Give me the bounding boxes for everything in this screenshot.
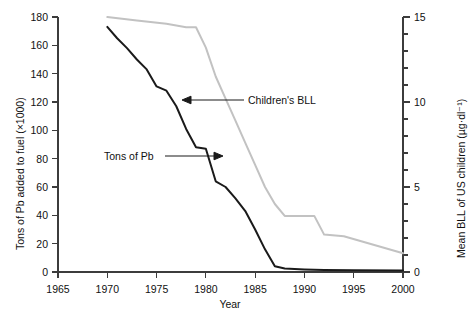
right-tick-label-0: 0 [414,266,420,278]
y-axis-right-title: Mean BLL of US children (µg·dl⁻¹) [455,99,467,258]
x-tick-label-1980: 1980 [182,283,230,295]
childrens-bll-arrow-head [182,96,191,104]
series-line-childrens-bll [107,17,403,253]
x-tick-label-1970: 1970 [83,283,131,295]
tons-of-pb-arrow-head [214,152,223,160]
x-tick-label-1965: 1965 [34,283,82,295]
left-axis-ticks [52,17,58,272]
right-tick-label-5: 5 [414,181,420,193]
series-line-tons-of-pb [107,27,403,271]
right-tick-label-15: 15 [414,11,426,23]
left-tick-label-0: 0 [16,266,48,278]
childrens-bll-annotation-label: Children's BLL [248,94,316,106]
bottom-axis-ticks [58,272,403,278]
axis-lines [58,17,403,272]
tons-of-pb-annotation-label: Tons of Pb [104,150,154,162]
left-tick-label-160: 160 [16,39,48,51]
x-axis-title: Year [206,298,254,310]
left-tick-label-140: 140 [16,68,48,80]
y-axis-left-title: Tons of Pb added to fuel (×1000) [14,97,26,250]
x-tick-label-1995: 1995 [330,283,378,295]
x-tick-label-1990: 1990 [280,283,328,295]
x-tick-label-1975: 1975 [133,283,181,295]
x-tick-label-1985: 1985 [231,283,279,295]
left-tick-label-180: 180 [16,11,48,23]
chart-canvas [0,0,470,314]
x-tick-label-2000: 2000 [379,283,427,295]
right-axis-ticks [403,17,410,272]
right-tick-label-10: 10 [414,96,426,108]
chart-figure: 0 20 40 60 80 100 120 140 160 180 0 5 10… [0,0,470,314]
